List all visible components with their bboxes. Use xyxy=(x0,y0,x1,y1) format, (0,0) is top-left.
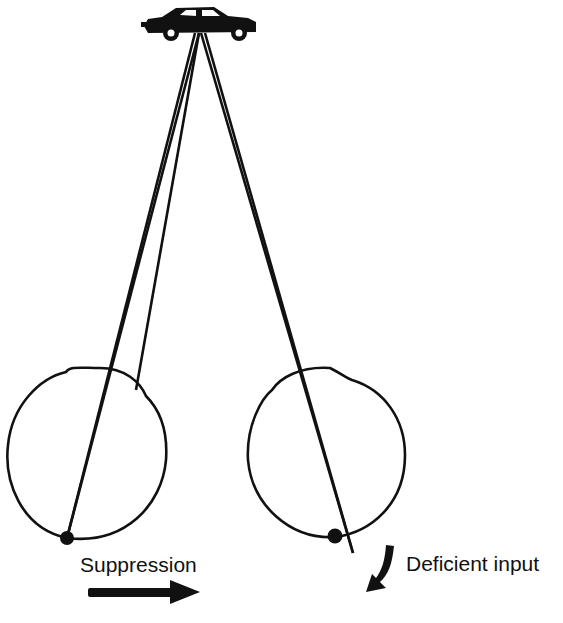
right-eye xyxy=(248,368,405,537)
suppression-label: Suppression xyxy=(80,554,197,575)
left-eye xyxy=(7,368,166,539)
deficient-input-arrow-icon xyxy=(366,545,394,592)
suppression-arrow-icon xyxy=(88,580,200,604)
deficient-input-label: Deficient input xyxy=(406,553,539,574)
binocular-vision-diagram xyxy=(0,0,563,623)
sight-lines-right xyxy=(201,33,353,553)
sight-lines-left xyxy=(67,33,199,538)
left-eye-focal-point xyxy=(60,531,74,545)
right-eye-focal-point xyxy=(328,529,343,544)
